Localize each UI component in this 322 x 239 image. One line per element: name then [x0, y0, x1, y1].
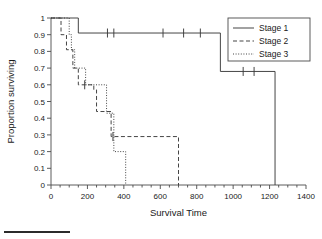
x-axis-title: Survival Time: [150, 207, 207, 218]
y-tick-label: 0.9: [34, 31, 46, 40]
x-tick-label: 0: [49, 192, 54, 201]
y-axis-title: Proportion surviving: [5, 60, 16, 144]
y-tick-label: 0.5: [34, 98, 46, 107]
legend-label-stage-3: Stage 3: [259, 49, 289, 59]
y-tick-label: 0: [41, 181, 46, 190]
x-tick-label: 800: [190, 192, 204, 201]
y-tick-label: 0.1: [34, 164, 46, 173]
x-tick-label: 1400: [297, 192, 315, 201]
series-line-stage-2: [51, 18, 179, 185]
legend-label-stage-1: Stage 1: [259, 23, 289, 33]
x-tick-label: 1000: [224, 192, 242, 201]
y-tick-label: 0.2: [34, 148, 46, 157]
x-tick-label: 1200: [261, 192, 279, 201]
kaplan-meier-plot: 020040060080010001200140010.90.80.70.60.…: [0, 0, 322, 239]
x-tick-label: 200: [81, 192, 95, 201]
y-tick-label: 0.3: [34, 131, 46, 140]
x-tick-label: 400: [117, 192, 131, 201]
y-tick-label: 0.4: [34, 114, 46, 123]
y-tick-label: 0.7: [34, 64, 46, 73]
survival-chart-figure: 020040060080010001200140010.90.80.70.60.…: [0, 0, 322, 239]
series-line-stage-3: [51, 18, 126, 185]
y-tick-label: 0.8: [34, 47, 46, 56]
y-tick-label: 1: [41, 14, 46, 23]
footer-rule: [4, 231, 70, 233]
legend-group: Stage 1Stage 2Stage 3: [228, 18, 310, 61]
legend-label-stage-2: Stage 2: [259, 36, 289, 46]
x-tick-label: 600: [154, 192, 168, 201]
y-tick-label: 0.6: [34, 81, 46, 90]
